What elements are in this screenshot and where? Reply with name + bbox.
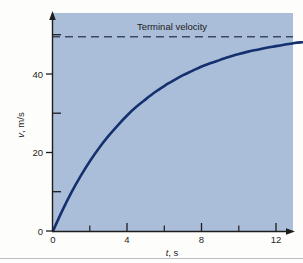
y-axis-title: v, m/s bbox=[15, 112, 26, 138]
x-axis-title: t, s bbox=[166, 247, 179, 258]
x-tick-label-0: 0 bbox=[50, 234, 55, 245]
x-tick-label-12: 12 bbox=[271, 234, 282, 245]
terminal-velocity-label: Terminal velocity bbox=[137, 21, 207, 32]
y-tick-label-40: 40 bbox=[32, 69, 43, 80]
x-tick-label-8: 8 bbox=[199, 234, 204, 245]
figure-container: Terminal velocity 0 20 40 v, m/s bbox=[0, 0, 303, 263]
figure-bottom-rule bbox=[0, 258, 303, 259]
velocity-time-chart: Terminal velocity 0 20 40 v, m/s bbox=[0, 0, 303, 263]
y-tick-label-0: 0 bbox=[38, 226, 43, 237]
x-tick-label-4: 4 bbox=[124, 234, 129, 245]
plot-grain-overlay bbox=[52, 13, 293, 231]
x-axis-title-unit: , s bbox=[168, 247, 178, 258]
y-tick-label-20: 20 bbox=[32, 147, 43, 158]
y-axis-title-unit: , m/s bbox=[15, 112, 26, 133]
